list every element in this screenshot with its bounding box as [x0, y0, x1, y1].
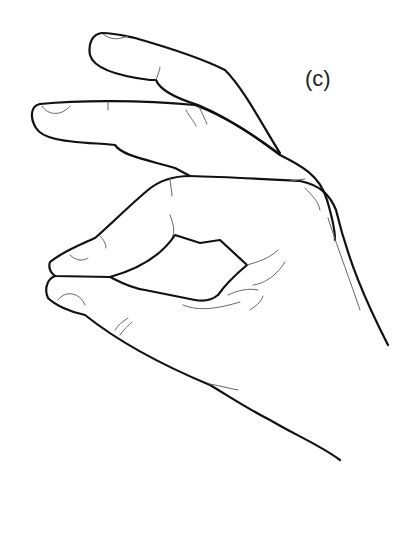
figure-label: (c) — [305, 66, 331, 92]
hand-drawing — [0, 0, 408, 539]
hand-illustration: (c) — [0, 0, 408, 539]
